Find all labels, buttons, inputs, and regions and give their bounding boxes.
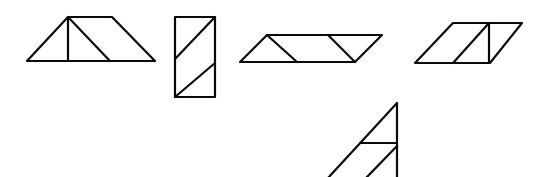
figure-triangle-partial <box>328 103 397 177</box>
trapezoid-outline <box>27 17 155 61</box>
trapezoid-diagonal-divider <box>68 17 110 61</box>
figure-rectangle <box>175 17 215 97</box>
triangle-partial-hypotenuse <box>328 103 397 177</box>
figure-trapezoid <box>27 17 155 61</box>
figure-parallelogram-wide <box>240 35 382 62</box>
rectangle-outline <box>175 17 215 97</box>
triangle-partial-inner-diagonal <box>366 146 397 177</box>
parallelogram-wide-left-divider <box>267 35 297 62</box>
parallelogram-wide-outline <box>240 35 382 62</box>
figures-canvas <box>0 0 544 177</box>
parallelogram-slanted-outline <box>415 23 522 63</box>
parallelogram-slanted-diagonal-divider <box>453 23 489 63</box>
rectangle-lower-diagonal <box>175 63 215 97</box>
parallelogram-wide-right-divider <box>328 35 355 62</box>
figure-parallelogram-slanted <box>415 23 522 63</box>
rectangle-upper-diagonal <box>175 17 215 59</box>
